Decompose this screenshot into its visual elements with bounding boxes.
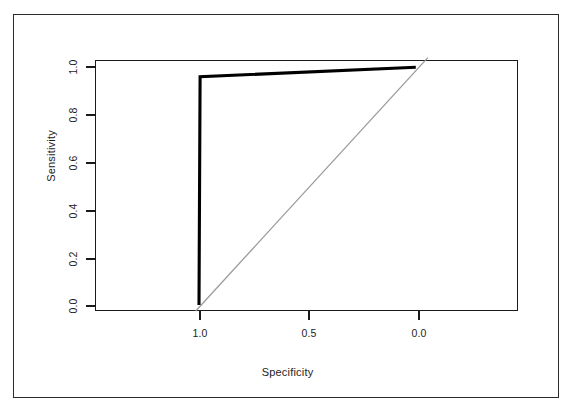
chance-diagonal-line — [196, 58, 428, 311]
roc-curve-line — [199, 67, 416, 305]
roc-plot-figure: 1.0 0.8 0.6 0.4 0.2 0.0 1.0 0.5 0.0 Spec… — [0, 0, 575, 414]
curve-layer — [0, 0, 575, 414]
